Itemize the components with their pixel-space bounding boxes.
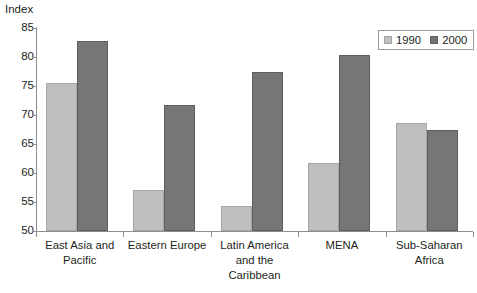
legend-label-2000: 2000 (442, 34, 467, 46)
category-label-line: Pacific (36, 253, 123, 268)
y-axis-tick-label: 50 (0, 225, 34, 236)
x-axis-category-label: East Asia andPacific (36, 238, 123, 268)
bar-group (36, 28, 123, 231)
category-separator-tick (36, 232, 37, 237)
legend-swatch-2000-icon (430, 36, 438, 44)
bar-2000 (77, 41, 108, 231)
category-separator-tick (386, 232, 387, 237)
y-axis-tick-label: 80 (0, 51, 34, 62)
category-label-line: East Asia and (36, 238, 123, 253)
bar-group (211, 28, 298, 231)
bar-group (123, 28, 210, 231)
y-axis-title: Index (5, 2, 33, 16)
category-label-line: Caribbean (211, 268, 298, 283)
y-axis-tick-label: 65 (0, 138, 34, 149)
category-label-line: and the (211, 253, 298, 268)
legend-entry-2000: 2000 (430, 34, 467, 46)
bar-1990 (46, 83, 77, 231)
category-separator-tick (473, 232, 474, 237)
bar-1990 (133, 190, 164, 231)
bar-2000 (252, 72, 283, 231)
category-separator-tick (298, 232, 299, 237)
y-axis-tick-label: 55 (0, 196, 34, 207)
x-axis-category-label: Sub-SaharanAfrica (386, 238, 473, 268)
category-label-line: Sub-Saharan (386, 238, 473, 253)
category-label-line: Eastern Europe (123, 238, 210, 253)
legend-entry-1990: 1990 (384, 34, 421, 46)
y-axis-tick-label: 60 (0, 167, 34, 178)
bar-2000 (427, 130, 458, 232)
bar-group (386, 28, 473, 231)
x-axis-category-label: MENA (298, 238, 385, 253)
x-axis-category-label: Eastern Europe (123, 238, 210, 253)
y-axis-tick-label: 85 (0, 22, 34, 33)
x-axis-category-label: Latin Americaand theCaribbean (211, 238, 298, 283)
bar-chart-figure: Index 8580757065605550 East Asia andPaci… (0, 0, 477, 293)
category-label-line: Africa (386, 253, 473, 268)
category-separator-tick (123, 232, 124, 237)
bar-1990 (308, 163, 339, 231)
category-label-line: MENA (298, 238, 385, 253)
bar-1990 (221, 206, 252, 231)
bar-2000 (339, 55, 370, 231)
category-separator-tick (211, 232, 212, 237)
y-axis-tick-label: 75 (0, 80, 34, 91)
category-label-line: Latin America (211, 238, 298, 253)
bar-group (298, 28, 385, 231)
legend-label-1990: 1990 (396, 34, 421, 46)
x-axis-line (36, 231, 473, 232)
bar-1990 (396, 123, 427, 231)
y-axis-tick-label: 70 (0, 109, 34, 120)
plot-area (36, 28, 473, 231)
chart-legend: 1990 2000 (378, 30, 474, 50)
bar-2000 (164, 105, 195, 231)
legend-swatch-1990-icon (384, 36, 392, 44)
